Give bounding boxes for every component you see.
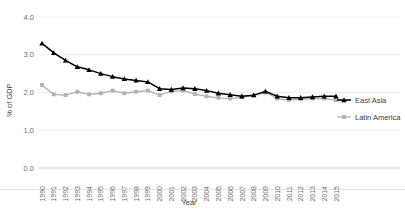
x-tick-label-2006: 2006 [227, 186, 234, 202]
data-marker [64, 93, 68, 97]
x-tick-label-2004: 2004 [203, 186, 210, 202]
x-tick-label-2010: 2010 [274, 186, 281, 202]
y-tick-label: 0.0 [24, 164, 34, 173]
y-tick-label: 3.0 [24, 50, 34, 59]
x-tick-label-2012: 2012 [297, 186, 304, 202]
x-tick-label-2000: 2000 [156, 186, 163, 202]
line-chart: 0.01.02.03.04.0% of GDP19901991199219931… [0, 0, 405, 212]
chart-container: 0.01.02.03.04.0% of GDP19901991199219931… [0, 0, 405, 212]
series-east-asia [39, 41, 338, 100]
data-marker [342, 115, 346, 119]
x-tick-label-2008: 2008 [250, 186, 257, 202]
x-tick-label-1999: 1999 [144, 186, 151, 202]
y-tick-label: 2.0 [24, 88, 34, 97]
x-tick-label-1996: 1996 [109, 186, 116, 202]
y-axis-title: % of GDP [5, 83, 14, 116]
x-tick-label-2001: 2001 [168, 186, 175, 202]
y-tick-label: 4.0 [24, 13, 34, 22]
data-marker [111, 89, 115, 93]
x-tick-label-2015: 2015 [333, 186, 340, 202]
x-tick-label-2005: 2005 [215, 186, 222, 202]
data-marker [205, 94, 209, 98]
data-marker [228, 97, 232, 101]
legend-label-latin-america: Latin America [355, 113, 401, 122]
x-tick-label-1995: 1995 [97, 186, 104, 202]
data-marker [39, 41, 44, 46]
data-marker [99, 91, 103, 95]
x-tick-label-1997: 1997 [121, 186, 128, 202]
x-tick-label-1994: 1994 [86, 186, 93, 202]
x-tick-label-2014: 2014 [321, 186, 328, 202]
x-tick-label-1991: 1991 [50, 186, 57, 202]
data-marker [193, 92, 197, 96]
data-marker [87, 92, 91, 96]
x-tick-label-1990: 1990 [39, 186, 46, 202]
x-tick-label-2007: 2007 [239, 186, 246, 202]
data-marker [40, 83, 44, 87]
data-marker [146, 89, 150, 93]
x-tick-label-2013: 2013 [309, 186, 316, 202]
series-line [42, 43, 336, 97]
x-axis-title: Year [181, 198, 197, 207]
y-tick-label: 1.0 [24, 126, 34, 135]
data-marker [122, 91, 126, 95]
data-marker [52, 92, 56, 96]
x-tick-label-2009: 2009 [262, 186, 269, 202]
x-tick-label-2011: 2011 [286, 186, 293, 201]
data-marker [158, 93, 162, 97]
legend-label-east-asia: East Asia [355, 96, 387, 105]
data-marker [134, 90, 138, 94]
x-tick-label-1993: 1993 [74, 186, 81, 202]
x-tick-label-1992: 1992 [62, 186, 69, 202]
legend: East AsiaLatin America [337, 96, 401, 122]
data-marker [75, 90, 79, 94]
x-tick-label-1998: 1998 [133, 186, 140, 202]
data-marker [217, 96, 221, 100]
